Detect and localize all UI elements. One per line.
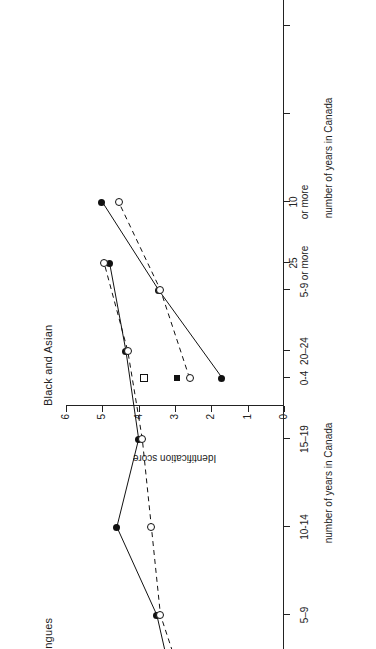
x-axis-title: number of years in Canada [323,235,334,649]
x-axis-tick-label: 10-14 [299,492,310,562]
x-axis-tick [284,350,290,351]
panel-title: Other Mother Tongues [42,131,54,649]
data-point-open-circle [124,347,132,355]
x-axis-tick-label-line: 5–9 [299,580,310,649]
x-axis-tick-label: 5–9 [299,580,310,649]
series-lines [66,235,284,649]
plot-area: Identification score number of years in … [66,235,284,649]
x-axis-tick-label-line: 10-14 [299,492,310,562]
x-axis-tick-label-line: or more [299,228,310,298]
panel-other-mother-tongues: Other Mother Tongues Identification scor… [0,325,376,649]
panel-rotor: Other Mother Tongues Identification scor… [38,187,338,649]
x-axis-tick-label-line: 15–19 [299,404,310,474]
x-axis-tick-label: 20–24 [299,316,310,386]
x-axis-tick-label: 15–19 [299,404,310,474]
x-axis-tick [284,438,290,439]
x-axis-tick-label-line: 20–24 [299,316,310,386]
x-axis-tick-label-line: 25 [288,228,299,298]
data-point-filled-circle [113,524,120,531]
x-axis-tick [284,614,290,615]
figure-root: Black and Asian Identification score num… [0,0,376,649]
x-axis-tick [284,25,290,26]
x-axis-tick [284,113,290,114]
x-axis-tick [284,526,290,527]
x-axis-tick-label: 25or more [288,228,310,298]
series-line-open-circle-dashed [104,263,189,649]
